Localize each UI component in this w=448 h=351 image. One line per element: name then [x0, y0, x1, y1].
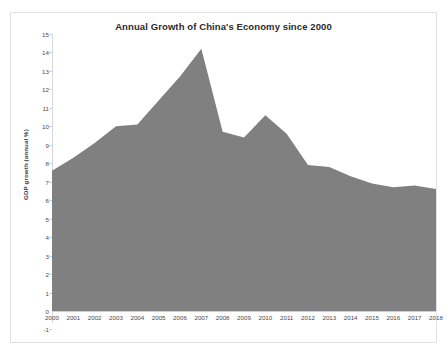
y-axis-tick-label: 13 — [31, 67, 49, 74]
y-axis-tick-label: 3 — [31, 252, 49, 259]
y-axis-tick-labels: 1514131211109876543210-1 — [29, 13, 49, 344]
plot-area: 1514131211109876543210-1 200020012002200… — [11, 13, 436, 342]
y-axis-tick-label: 9 — [31, 141, 49, 148]
chart-card: Annual Growth of China's Economy since 2… — [10, 12, 437, 343]
area-series — [52, 34, 436, 311]
y-axis-tick-label: 10 — [31, 123, 49, 130]
y-axis-tick-label: 2 — [31, 271, 49, 278]
x-axis-tick-labels: 2000200120022003200420052006200720082009… — [52, 314, 436, 328]
y-axis-tick-label: 5 — [31, 215, 49, 222]
y-axis-tick-label: 8 — [31, 160, 49, 167]
y-axis-tick-label: 7 — [31, 178, 49, 185]
x-axis-line — [52, 311, 436, 312]
y-axis-tick-label: 6 — [31, 197, 49, 204]
y-axis-tick-label: 12 — [31, 86, 49, 93]
area-polygon — [52, 49, 436, 311]
x-axis-tick-label: 2018 — [423, 314, 448, 321]
y-axis-tick-label: 14 — [31, 49, 49, 56]
y-axis-tick-mark — [49, 329, 52, 330]
y-axis-tick-label: 1 — [31, 289, 49, 296]
y-axis-tick-label: -1 — [31, 326, 49, 333]
y-axis-tick-label: 11 — [31, 104, 49, 111]
y-axis-tick-label: 15 — [31, 31, 49, 38]
y-axis-tick-label: 4 — [31, 234, 49, 241]
